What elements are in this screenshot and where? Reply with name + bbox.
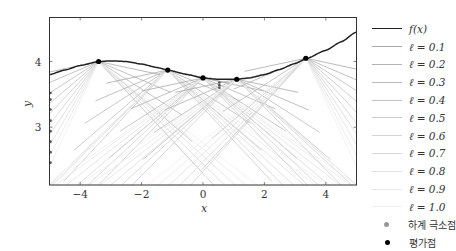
x-axis-label: x xyxy=(201,202,208,215)
legend-item: ℓ = 0.7 xyxy=(368,145,456,163)
legend-line-swatch xyxy=(372,117,402,118)
legend-label: ℓ = 0.3 xyxy=(409,76,446,88)
y-axis-label: y xyxy=(21,100,34,108)
legend-item: ℓ = 1.0 xyxy=(368,198,456,216)
svg-text:−2: −2 xyxy=(134,188,149,200)
legend-label: ℓ = 1.0 xyxy=(409,201,446,213)
legend-label: ℓ = 0.1 xyxy=(409,41,446,53)
legend-label: f(x) xyxy=(409,23,427,35)
legend-line-swatch xyxy=(372,206,402,207)
legend-line-swatch xyxy=(372,135,402,136)
legend-item: ℓ = 0.1 xyxy=(368,38,456,56)
legend-label: ℓ = 0.9 xyxy=(409,183,446,195)
legend-item: ℓ = 0.4 xyxy=(368,91,456,109)
svg-text:4: 4 xyxy=(322,188,329,200)
legend-item: 하계 극소점 xyxy=(368,216,456,234)
legend-label: ℓ = 0.6 xyxy=(409,130,446,142)
legend-line-swatch xyxy=(372,153,402,154)
legend-marker-icon xyxy=(384,222,389,227)
legend-label: 하계 극소점 xyxy=(408,217,456,232)
legend-label: ℓ = 0.5 xyxy=(409,112,446,124)
legend-item: ℓ = 0.8 xyxy=(368,162,456,180)
svg-text:−4: −4 xyxy=(72,188,88,200)
svg-text:2: 2 xyxy=(261,188,268,200)
legend-line-swatch xyxy=(372,82,402,83)
legend-label: ℓ = 0.2 xyxy=(409,58,446,70)
legend-item: 평가점 xyxy=(368,234,456,251)
legend-line-swatch xyxy=(372,64,402,65)
legend-line-swatch xyxy=(372,28,402,29)
legend-item: f(x) xyxy=(368,20,456,38)
legend-label: ℓ = 0.7 xyxy=(409,147,446,159)
svg-text:3: 3 xyxy=(35,121,42,133)
legend-marker-icon xyxy=(385,240,390,245)
legend-line-swatch xyxy=(372,100,402,101)
legend-line-swatch xyxy=(372,189,402,190)
chart-legend: f(x)ℓ = 0.1ℓ = 0.2ℓ = 0.3ℓ = 0.4ℓ = 0.5ℓ… xyxy=(368,20,456,251)
legend-line-swatch xyxy=(372,171,402,172)
legend-label: ℓ = 0.8 xyxy=(409,165,446,177)
legend-label: 평가점 xyxy=(409,235,436,250)
legend-label: ℓ = 0.4 xyxy=(409,94,446,106)
legend-item: ℓ = 0.6 xyxy=(368,127,456,145)
legend-line-swatch xyxy=(372,46,402,47)
svg-text:4: 4 xyxy=(35,56,42,68)
legend-item: ℓ = 0.3 xyxy=(368,73,456,91)
legend-item: ℓ = 0.9 xyxy=(368,180,456,198)
legend-item: ℓ = 0.2 xyxy=(368,56,456,74)
svg-text:0: 0 xyxy=(200,188,207,200)
evaluation-points xyxy=(96,56,308,82)
legend-item: ℓ = 0.5 xyxy=(368,109,456,127)
function-curve xyxy=(50,32,357,79)
